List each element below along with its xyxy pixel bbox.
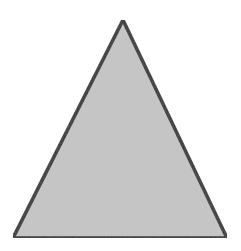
- triangle-diagram: [0, 0, 241, 251]
